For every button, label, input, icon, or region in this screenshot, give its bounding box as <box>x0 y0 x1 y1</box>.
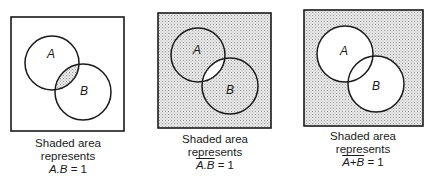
expr-overlined: A+B <box>342 156 364 168</box>
label-b: B <box>80 84 88 98</box>
diagram-nor: A B <box>304 10 423 126</box>
caption-line1: Shaded area <box>155 133 275 146</box>
caption-line2: represents <box>155 146 275 159</box>
label-b: B <box>226 83 234 97</box>
expr-equals: = 1 <box>364 156 384 168</box>
label-a: A <box>46 47 55 61</box>
label-a: A <box>192 43 201 57</box>
caption-line2: represents <box>303 143 423 156</box>
caption-line1: Shaded area <box>303 130 423 143</box>
caption-line1: Shaded area <box>8 137 128 150</box>
caption-nand: Shaded area represents A.B = 1 <box>155 133 275 172</box>
label-a: A <box>339 44 348 58</box>
expr-plain: A.B <box>49 163 68 175</box>
diagram-nand: A B <box>158 13 271 128</box>
caption-expression: A+B = 1 <box>303 156 423 169</box>
venn-diagram-figure: A B A B A B Shaded area represents A.B =… <box>0 0 428 176</box>
caption-expression: A.B = 1 <box>155 159 275 172</box>
expr-equals: = 1 <box>215 159 235 171</box>
label-b: B <box>372 79 380 93</box>
caption-line2: represents <box>8 150 128 163</box>
caption-nor: Shaded area represents A+B = 1 <box>303 130 423 169</box>
caption-expression: A.B = 1 <box>8 163 128 176</box>
expr-overlined: A.B <box>196 159 215 171</box>
diagram-and: A B <box>11 17 124 131</box>
caption-and: Shaded area represents A.B = 1 <box>8 137 128 176</box>
expr-equals: = 1 <box>68 163 88 175</box>
